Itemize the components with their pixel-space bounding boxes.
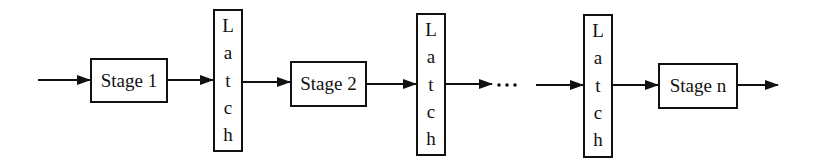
latch-1-label: L a t c h xyxy=(214,16,242,144)
latch-letter: L xyxy=(425,20,437,39)
stage-n-label: Stage n xyxy=(659,64,737,108)
latch-3-label: L a t c h xyxy=(584,21,612,149)
latch-letter: a xyxy=(594,48,602,67)
latch-letter: a xyxy=(427,47,435,66)
latch-2-label: L a t c h xyxy=(417,20,445,148)
stage-1-label: Stage 1 xyxy=(91,59,167,102)
latch-letter: t xyxy=(428,75,433,94)
latch-letter: h xyxy=(426,129,436,148)
latch-letter: c xyxy=(427,102,435,121)
latch-letter: a xyxy=(224,43,232,62)
ellipsis-dots xyxy=(497,83,517,87)
stage-2-label: Stage 2 xyxy=(291,62,366,106)
latch-letter: t xyxy=(595,76,600,95)
latch-letter: h xyxy=(593,130,603,149)
latch-letter: c xyxy=(594,103,602,122)
latch-letter: h xyxy=(223,125,233,144)
latch-letter: t xyxy=(225,71,230,90)
latch-letter: L xyxy=(222,16,234,35)
latch-letter: c xyxy=(224,98,232,117)
latch-letter: L xyxy=(592,21,604,40)
pipeline-diagram: Stage 1 Stage 2 Stage n L a t c h L a t … xyxy=(0,0,817,166)
